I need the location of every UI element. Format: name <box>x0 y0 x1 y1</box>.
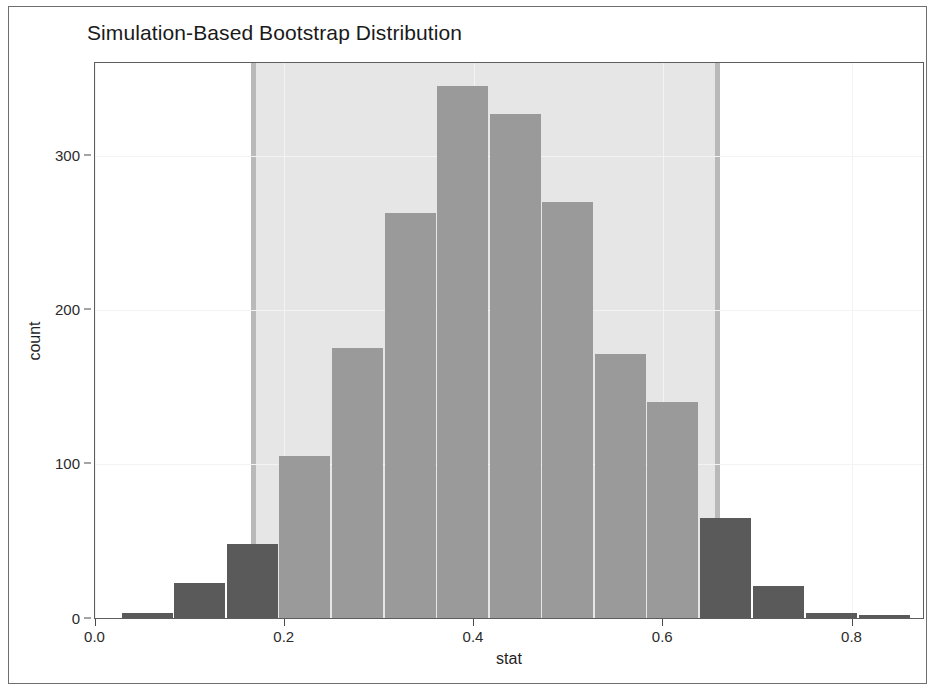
x-axis-tick-mark <box>284 619 285 626</box>
gridline-vertical <box>852 63 853 618</box>
x-axis-tick-mark <box>852 619 853 626</box>
y-axis: 0100200300 <box>9 62 94 619</box>
histogram-bar <box>647 402 698 618</box>
x-axis-tick-label: 0.6 <box>652 628 673 645</box>
y-axis-tick-mark <box>84 309 91 310</box>
x-axis-tick-mark <box>473 619 474 626</box>
y-axis-tick-label: 100 <box>55 455 80 472</box>
y-axis-tick-mark <box>84 463 91 464</box>
y-axis-tick-mark <box>84 155 91 156</box>
page-title: Simulation-Based Bootstrap Distribution <box>87 21 462 45</box>
x-axis-tick-mark <box>662 619 663 626</box>
histogram-bar <box>279 456 330 618</box>
figure-frame: Simulation-Based Bootstrap Distribution … <box>8 6 927 684</box>
x-axis-tick-label: 0.4 <box>463 628 484 645</box>
y-axis-tick-label: 300 <box>55 147 80 164</box>
x-axis-tick-label: 0.0 <box>84 628 105 645</box>
x-axis-tick-label: 0.2 <box>273 628 294 645</box>
histogram-bar <box>806 613 857 618</box>
x-axis: 0.00.20.40.60.8 <box>94 619 924 649</box>
histogram-bar <box>122 613 173 618</box>
confidence-interval-edge-lower <box>251 63 256 618</box>
histogram-bar <box>700 518 751 618</box>
histogram-bar <box>490 114 541 618</box>
x-axis-tick-mark <box>95 619 96 626</box>
y-axis-tick-mark <box>84 617 91 618</box>
plot-panel <box>94 62 924 619</box>
histogram-bar <box>542 202 593 618</box>
histogram-bar <box>332 348 383 618</box>
y-axis-tick-label: 200 <box>55 301 80 318</box>
histogram-bar <box>437 86 488 618</box>
x-axis-title: stat <box>94 650 924 668</box>
histogram-bar <box>174 583 225 618</box>
histogram-bar <box>227 544 278 618</box>
y-axis-tick-label: 0 <box>72 609 80 626</box>
histogram-bar <box>595 354 646 618</box>
histogram-bar <box>753 586 804 618</box>
x-axis-tick-label: 0.8 <box>841 628 862 645</box>
gridline-vertical <box>95 63 96 618</box>
histogram-bar <box>859 615 910 618</box>
histogram-bar <box>385 213 436 618</box>
